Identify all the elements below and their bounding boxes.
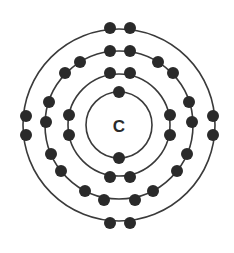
electron-shell-4 (104, 22, 116, 34)
electron-shell-3 (104, 45, 116, 57)
electron-shell-3 (186, 116, 198, 128)
electron-shell-3 (98, 194, 110, 206)
electron-shell-2 (63, 109, 75, 121)
electron-shell-3 (45, 148, 57, 160)
electron-shell-1 (113, 152, 125, 164)
electron-shell-4 (104, 217, 116, 229)
electron-shell-3 (59, 67, 71, 79)
electron-shell-4 (20, 129, 32, 141)
electron-shell-2 (104, 67, 116, 79)
electron-shell-2 (164, 129, 176, 141)
electron-shell-3 (79, 185, 91, 197)
electron-shell-3 (152, 56, 164, 68)
electron-shell-3 (183, 96, 195, 108)
electron-shell-4 (124, 217, 136, 229)
electron-shell-3 (129, 194, 141, 206)
electron-shell-3 (147, 185, 159, 197)
electron-shell-2 (63, 129, 75, 141)
electron-shell-4 (207, 129, 219, 141)
electron-shell-3 (40, 116, 52, 128)
electron-shell-3 (167, 67, 179, 79)
electron-shell-2 (164, 109, 176, 121)
atom-diagram: C (0, 0, 234, 253)
nucleus-symbol: C (113, 117, 125, 136)
electron-shell-2 (124, 67, 136, 79)
electron-shell-3 (124, 45, 136, 57)
electron-shell-4 (20, 110, 32, 122)
electron-shell-4 (124, 22, 136, 34)
electron-shell-1 (113, 86, 125, 98)
electron-shell-4 (207, 110, 219, 122)
electron-shell-3 (43, 96, 55, 108)
electron-shell-2 (124, 171, 136, 183)
electron-shell-2 (104, 171, 116, 183)
electron-shell-3 (55, 165, 67, 177)
electron-shell-3 (181, 148, 193, 160)
electron-shell-3 (74, 56, 86, 68)
electron-shell-3 (171, 165, 183, 177)
